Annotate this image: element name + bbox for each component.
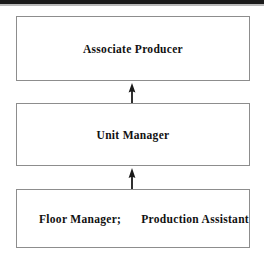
node-floor-manager-label: Floor Manager;: [39, 213, 121, 225]
node-unit-manager: Unit Manager: [16, 103, 250, 166]
node-unit-manager-label: Unit Manager: [97, 129, 170, 141]
node-associate-producer-label: Associate Producer: [83, 43, 183, 55]
node-floor-production-assistant: Floor Manager; Production Assistant: [16, 189, 250, 248]
node-floor-production-labels: Floor Manager; Production Assistant: [17, 213, 249, 225]
up-arrow-icon-unit-to-associate: [125, 83, 139, 103]
page-top-scan-band-fade: [0, 4, 264, 6]
up-arrow-icon-floor-to-unit: [125, 168, 139, 189]
node-associate-producer: Associate Producer: [16, 16, 250, 81]
diagram-canvas: Associate Producer Unit Manager Floor Ma…: [0, 0, 264, 262]
node-production-assistant-label: Production Assistant: [141, 213, 249, 225]
